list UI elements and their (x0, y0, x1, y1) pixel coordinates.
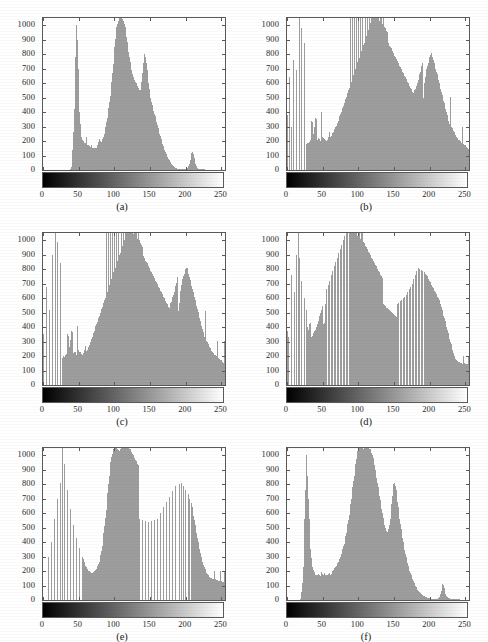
y-tick-mark (43, 600, 46, 601)
y-tick-label: 0 (31, 380, 35, 389)
x-tick-mark (394, 448, 395, 451)
x-tick-mark (465, 167, 466, 170)
histogram-bar (301, 28, 302, 170)
x-tick-label: 200 (422, 620, 435, 629)
y-tick-mark (466, 542, 469, 543)
y-tick-mark (466, 54, 469, 55)
y-tick-mark (222, 600, 225, 601)
y-tick-label: 600 (22, 293, 35, 302)
x-tick-label: 0 (40, 620, 44, 629)
y-tick-mark (222, 499, 225, 500)
y-tick-label: 400 (266, 107, 279, 116)
x-tick-label: 250 (214, 190, 227, 199)
histogram-bar (172, 491, 173, 600)
y-tick-mark (43, 269, 46, 270)
x-tick-mark (79, 448, 80, 451)
y-tick-mark (287, 83, 290, 84)
y-tick-mark (466, 25, 469, 26)
y-tick-mark (222, 542, 225, 543)
y-tick-mark (287, 499, 290, 500)
y-tick-mark (287, 371, 290, 372)
y-tick-label: 0 (275, 595, 279, 604)
x-tick-label: 50 (317, 620, 326, 629)
y-tick-label: 1000 (262, 20, 279, 29)
histogram-bars-a (43, 18, 225, 170)
y-tick-mark (466, 484, 469, 485)
y-tick-mark (287, 484, 290, 485)
x-tick-mark (430, 382, 431, 385)
x-tick-label: 0 (284, 190, 288, 199)
y-tick-mark (222, 25, 225, 26)
y-tick-mark (43, 385, 46, 386)
panel-caption-d: (d) (244, 416, 488, 427)
x-tick-label: 250 (214, 405, 227, 414)
x-tick-label: 150 (143, 190, 156, 199)
y-tick-mark (222, 327, 225, 328)
x-tick-mark (358, 233, 359, 236)
y-tick-label: 700 (266, 493, 279, 502)
x-tick-mark (186, 597, 187, 600)
x-tick-label: 200 (178, 190, 191, 199)
y-tick-label: 900 (266, 34, 279, 43)
x-tick-mark (221, 233, 222, 236)
y-tick-mark (222, 141, 225, 142)
y-tick-mark (287, 455, 290, 456)
y-tick-label: 300 (266, 121, 279, 130)
y-tick-label: 900 (22, 464, 35, 473)
y-tick-label: 1000 (18, 235, 35, 244)
y-tick-mark (466, 371, 469, 372)
y-tick-label: 1000 (18, 20, 35, 29)
histogram-bar (62, 448, 63, 600)
x-tick-mark (358, 382, 359, 385)
histogram-bars-c (43, 233, 225, 385)
y-axis-labels-a: 01002003004005006007008009001000 (0, 17, 39, 169)
y-tick-mark (222, 470, 225, 471)
x-tick-label: 150 (143, 405, 156, 414)
y-tick-label: 100 (22, 365, 35, 374)
x-tick-mark (430, 233, 431, 236)
histogram-bar (64, 464, 65, 600)
histogram-bar (60, 483, 61, 600)
x-tick-mark (287, 382, 288, 385)
y-tick-label: 800 (266, 49, 279, 58)
y-tick-mark (43, 141, 46, 142)
y-tick-label: 0 (31, 595, 35, 604)
histogram-bar (55, 233, 56, 385)
x-tick-mark (287, 597, 288, 600)
histogram-bar (157, 519, 158, 600)
y-tick-mark (222, 557, 225, 558)
y-axis-labels-f: 01002003004005006007008009001000 (244, 447, 283, 599)
y-tick-mark (466, 40, 469, 41)
x-tick-mark (79, 18, 80, 21)
x-tick-mark (394, 167, 395, 170)
y-tick-mark (222, 83, 225, 84)
y-tick-label: 100 (266, 365, 279, 374)
x-tick-mark (43, 233, 44, 236)
histogram-bar (73, 525, 74, 600)
y-tick-mark (287, 98, 290, 99)
y-tick-label: 900 (266, 249, 279, 258)
y-tick-mark (466, 586, 469, 587)
y-tick-mark (466, 342, 469, 343)
y-axis-labels-c: 01002003004005006007008009001000 (0, 232, 39, 384)
y-tick-mark (287, 571, 290, 572)
x-tick-mark (221, 597, 222, 600)
y-tick-mark (222, 40, 225, 41)
y-tick-mark (287, 141, 290, 142)
x-tick-mark (43, 167, 44, 170)
y-tick-mark (466, 156, 469, 157)
y-tick-mark (43, 83, 46, 84)
y-tick-mark (43, 240, 46, 241)
y-tick-label: 600 (22, 508, 35, 517)
histogram-bar (145, 521, 146, 600)
y-tick-label: 0 (31, 165, 35, 174)
y-tick-mark (287, 586, 290, 587)
y-tick-mark (287, 513, 290, 514)
histogram-bar (185, 490, 186, 600)
y-tick-label: 900 (22, 249, 35, 258)
x-tick-mark (43, 18, 44, 21)
y-tick-label: 300 (22, 551, 35, 560)
y-tick-mark (466, 284, 469, 285)
y-tick-mark (222, 342, 225, 343)
x-tick-label: 200 (178, 405, 191, 414)
